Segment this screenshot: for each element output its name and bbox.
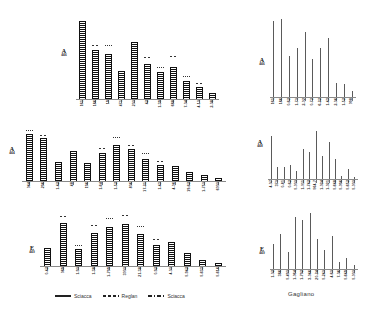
bar <box>26 134 33 181</box>
scanned-figure: 16118619471200421-396887-044-102-08 A 44… <box>0 0 382 316</box>
x-tick-label: 0-42 <box>46 267 49 275</box>
x-tick-label: 0-942 <box>186 267 189 277</box>
panel-value: 446 <box>56 54 72 57</box>
bar-slot <box>309 18 317 97</box>
x-tick-label: 1-52 <box>343 98 346 106</box>
x-tick-label: 186 <box>280 98 283 104</box>
bar <box>172 166 179 181</box>
x-tick-label: 0-633 <box>201 267 204 277</box>
bar <box>118 71 125 99</box>
x-label-slot: 098 <box>348 98 356 114</box>
bar-cap-marker <box>137 226 144 227</box>
x-label-slot: 296 <box>37 182 52 198</box>
x-label-slot: 2-02 <box>301 98 309 114</box>
bar-slot <box>182 130 197 181</box>
bar-slot <box>278 18 286 97</box>
panel-value: 449 <box>254 252 270 255</box>
x-tick-label: 064-7 <box>314 180 317 190</box>
x-tick-label: 0-649 <box>345 270 348 280</box>
bar-slot <box>40 215 56 266</box>
x-label-slot: 386 <box>277 270 284 286</box>
bar-slot <box>89 18 102 99</box>
bar <box>75 249 82 266</box>
bar-cap-marker <box>75 245 82 246</box>
chart-mid-left: 0442961-42481961-641-5280617-211-434-061… <box>22 130 226 182</box>
bar <box>40 138 47 181</box>
bar-slot <box>164 215 180 266</box>
bar-slot <box>325 18 333 97</box>
x-tick-labels: 16118619471200421-396887-044-102-08 <box>76 100 219 116</box>
bar-slot <box>180 215 196 266</box>
bar <box>91 233 98 266</box>
bar-slot <box>351 212 358 269</box>
x-tick-label: 19-62 <box>188 182 191 192</box>
x-tick-label: 044 <box>28 182 31 188</box>
x-tick-label: 1-799 <box>108 267 111 277</box>
bar-slot <box>197 130 212 181</box>
plot-area: 0442961-42481961-641-5280617-211-434-061… <box>22 130 226 182</box>
bar <box>297 48 298 97</box>
x-label-slot: 0-649 <box>343 270 350 286</box>
bar <box>290 165 291 179</box>
x-tick-label: 0-81 <box>282 180 285 188</box>
bar <box>137 234 144 266</box>
bar-slot <box>286 18 294 97</box>
x-tick-label: 0-72 <box>311 98 314 106</box>
bar-slot <box>348 18 356 97</box>
plot-area: 0-420891-901-381-799300021-380-924-000-9… <box>40 215 226 267</box>
bar-slot <box>193 18 206 99</box>
x-label-slot: 0-42 <box>40 267 56 283</box>
x-tick-label: 6000 <box>217 182 220 190</box>
x-tick-label: 0-490 <box>287 270 290 280</box>
x-label-slot: 2-06 <box>333 98 341 114</box>
x-tick-label: 1-750 <box>203 182 206 192</box>
x-tick-label: 3000 <box>124 267 127 275</box>
bar <box>332 236 333 269</box>
bar-slot <box>329 212 336 269</box>
x-label-slot: 200 <box>128 100 141 116</box>
x-tick-label: 1-42 <box>57 182 60 190</box>
bar-slot <box>292 212 299 269</box>
x-tick-label: 1-064 <box>294 270 297 280</box>
legend-label: Sciacca <box>74 293 92 299</box>
x-tick-label: 0-62 <box>288 98 291 106</box>
bar-slot <box>118 215 134 266</box>
x-label-slot: 0-000 <box>351 180 357 196</box>
bar-slot <box>270 18 278 97</box>
x-tick-labels: 0-420891-901-381-799300021-380-924-000-9… <box>40 267 226 283</box>
x-tick-label: 1-39 <box>159 100 162 108</box>
x-tick-label: 7-04 <box>185 100 188 108</box>
bar-slot <box>333 18 341 97</box>
x-tick-label: 17-21 <box>144 182 147 192</box>
bar-cap-marker <box>60 216 67 217</box>
legend-swatch-dashed-icon <box>103 295 119 296</box>
x-label-slot: 688 <box>167 100 180 116</box>
bar <box>128 149 135 181</box>
bar-slot <box>321 212 328 269</box>
legend-item: Sciacca <box>148 293 185 299</box>
x-tick-label: 0-000 <box>353 180 356 190</box>
x-tick-label: 0-92 <box>155 267 158 275</box>
x-label-slot: 1-64 <box>95 182 110 198</box>
bar <box>60 223 67 266</box>
x-label-slot: 196 <box>80 182 95 198</box>
bar <box>348 169 349 179</box>
bar-group <box>76 18 219 99</box>
bar <box>336 83 337 97</box>
chart-bottom-left: 0-420891-901-381-799300021-380-924-000-9… <box>40 215 226 267</box>
bar-slot <box>22 130 37 181</box>
bar <box>122 224 129 266</box>
x-label-slot: 4-00 <box>164 267 180 283</box>
x-tick-label: 48 <box>71 182 74 186</box>
bar-slot <box>80 130 95 181</box>
x-label-slot: 0-616 <box>211 267 227 283</box>
bar-slot <box>153 130 168 181</box>
panel-value: 446 <box>254 63 270 66</box>
legend-item: Reglan <box>103 293 138 299</box>
panel-value: 448 <box>252 145 268 148</box>
x-tick-label: 42 <box>146 100 149 104</box>
x-tick-label: 20-24 <box>316 270 319 280</box>
bar-slot <box>336 212 343 269</box>
x-label-slot: 806 <box>124 182 139 198</box>
chart-top-right: 1611860-621-702-020-726-221-432-061-5209… <box>270 18 356 98</box>
